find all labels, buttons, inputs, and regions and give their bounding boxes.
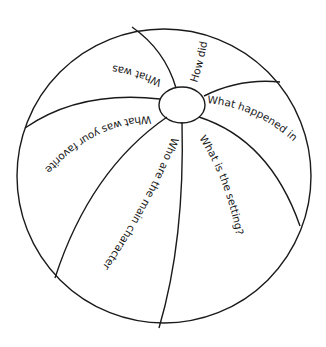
prompt-bottom-right: What is the setting?	[197, 133, 246, 236]
prompt-top-left: What was	[111, 63, 163, 89]
prompt-top: How did	[187, 40, 209, 84]
beach-ball-diagram: What was How did What happened in What w…	[0, 0, 326, 347]
ball-center-cap	[159, 87, 205, 123]
prompt-left: What was your favorite	[43, 114, 151, 176]
seam-upper-right	[204, 81, 280, 96]
prompt-right: What happened in	[207, 93, 300, 143]
